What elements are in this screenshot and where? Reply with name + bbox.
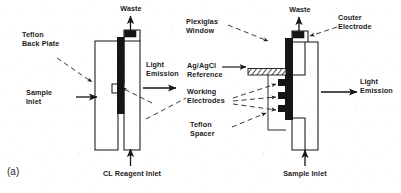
- panel-id: (a): [7, 166, 19, 177]
- flow-channel-left: [117, 37, 125, 105]
- label-cl-reagent-inlet: CL Reagent Inlet: [89, 170, 175, 179]
- leader-teflon-spacer: [232, 113, 266, 127]
- cell-body-step-right: [292, 42, 305, 75]
- counter-electrode-block-right: [293, 32, 305, 39]
- working-electrode-tab-2: [278, 92, 286, 99]
- label-waste-right: Waste: [276, 6, 324, 15]
- leader-working-electrode-3: [233, 104, 276, 110]
- label-working-electrodes: Working Electrodes: [187, 88, 237, 105]
- label-plexiglas-window: Plexiglas Window: [186, 18, 242, 35]
- plexiglas-window-outline-left: [112, 41, 140, 150]
- leader-window-crossview: [146, 98, 186, 119]
- flow-channel-stub-left: [117, 105, 125, 114]
- label-counter-electrode: Couter Electrode: [338, 14, 398, 31]
- leader-teflon-back-plate: [57, 58, 92, 82]
- working-electrode-tab-1: [278, 79, 286, 86]
- leader-flow-channel: [122, 88, 152, 103]
- label-teflon-spacer: Teflon Spacer: [190, 121, 232, 138]
- left-cell-assembly: [95, 30, 140, 150]
- label-teflon-back-plate: Teflon Back Plate: [22, 31, 84, 48]
- label-waste-left: Waste: [107, 5, 155, 14]
- cell-body-step-lower-right: [292, 118, 305, 150]
- teflon-back-plate-outline: [95, 41, 118, 150]
- leader-working-electrode-1: [233, 84, 276, 98]
- right-cell-assembly: [248, 31, 318, 150]
- working-electrode-tab-3: [278, 105, 286, 112]
- label-sample-inlet-right: Sample Inlet: [268, 170, 342, 179]
- label-ag-agcl-reference: Ag/AgCl Reference: [187, 62, 225, 79]
- label-sample-inlet-left: Sample Inlet: [26, 89, 74, 106]
- ag-agcl-reference-bar: [248, 69, 286, 76]
- leader-working-electrode-2: [233, 97, 276, 101]
- electrode-column-right: [285, 38, 293, 120]
- label-light-emission-left: Light Emission: [146, 61, 192, 78]
- label-light-emission-right: Light Emission: [360, 78, 401, 95]
- figure-canvas: Waste Teflon Back Plate Light Emission S…: [0, 0, 401, 193]
- leader-counter-electrode: [310, 27, 337, 36]
